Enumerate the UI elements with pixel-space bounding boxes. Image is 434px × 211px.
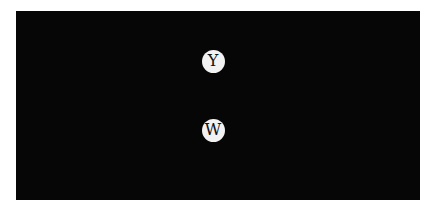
- game-board: Y W: [16, 11, 420, 200]
- token-label: Y: [208, 53, 219, 69]
- letter-token-y[interactable]: Y: [202, 50, 225, 73]
- letter-token-w[interactable]: W: [202, 119, 225, 142]
- token-label: W: [205, 122, 221, 138]
